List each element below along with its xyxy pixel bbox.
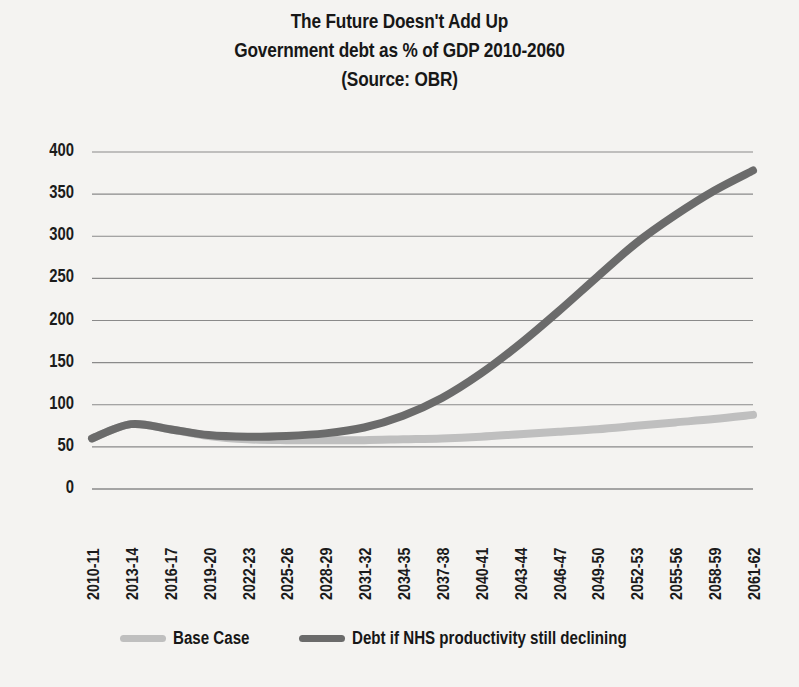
- legend-label: Debt if NHS productivity still declining: [352, 628, 627, 649]
- x-axis-tick-label: 2013-14: [123, 548, 143, 600]
- y-axis-tick-label: 350: [30, 181, 74, 203]
- x-axis-tick-label: 2025-26: [278, 548, 298, 600]
- x-axis-tick-label: 2028-29: [317, 548, 337, 600]
- x-axis-tick-label: 2031-32: [356, 548, 376, 600]
- x-axis-tick-label: 2058-59: [706, 548, 726, 600]
- x-axis-tick-label: 2061-62: [745, 548, 765, 600]
- legend-swatch: [120, 635, 166, 642]
- y-axis-tick-label: 100: [30, 392, 74, 414]
- legend-label: Base Case: [173, 628, 250, 649]
- x-axis-tick-label: 2043-44: [512, 548, 532, 600]
- x-axis-tick-label: 2022-23: [240, 548, 260, 600]
- y-axis-tick-label: 250: [30, 265, 74, 287]
- legend-swatch: [299, 635, 345, 642]
- y-axis-tick-label: 150: [30, 350, 74, 372]
- x-axis-tick-label: 2052-53: [628, 548, 648, 600]
- chart-legend: Base CaseDebt if NHS productivity still …: [0, 628, 799, 649]
- x-axis-tick-label: 2055-56: [667, 548, 687, 600]
- y-axis-tick-label: 0: [30, 476, 74, 498]
- series-line-nhs-declining: [92, 171, 753, 439]
- x-axis-tick-label: 2034-35: [395, 548, 415, 600]
- x-axis-tick-label: 2040-41: [473, 548, 493, 600]
- y-axis-tick-label: 200: [30, 308, 74, 330]
- y-axis-tick-label: 400: [30, 139, 74, 161]
- x-axis-tick-label: 2046-47: [551, 548, 571, 600]
- y-axis-tick-label: 50: [30, 434, 74, 456]
- x-axis-tick-label: 2037-38: [434, 548, 454, 600]
- x-axis-tick-label: 2049-50: [589, 548, 609, 600]
- legend-entry-base-case[interactable]: Base Case: [120, 628, 264, 649]
- x-axis-tick-label: 2016-17: [162, 548, 182, 600]
- x-axis-tick-label: 2019-20: [201, 548, 221, 600]
- x-axis-tick-label: 2010-11: [84, 548, 104, 600]
- legend-entry-nhs-declining[interactable]: Debt if NHS productivity still declining: [299, 628, 679, 649]
- y-axis-tick-label: 300: [30, 223, 74, 245]
- chart-container: The Future Doesn't Add Up Government deb…: [0, 0, 799, 687]
